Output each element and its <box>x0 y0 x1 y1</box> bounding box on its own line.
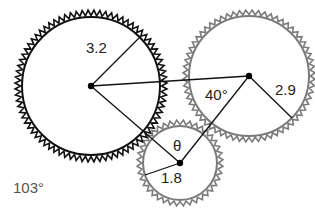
small-angle-label: θ <box>173 138 181 153</box>
large-center-dot <box>88 83 94 89</box>
corner-angle-label: 103° <box>13 180 44 195</box>
right-center-dot <box>246 73 252 79</box>
right-angle-label: 40° <box>205 87 228 102</box>
large-radius-label: 3.2 <box>86 40 107 55</box>
gear-diagram <box>0 0 315 213</box>
small-center-dot <box>177 160 183 166</box>
small-radius-label: 1.8 <box>161 170 182 185</box>
right-radius-label: 2.9 <box>275 82 296 97</box>
